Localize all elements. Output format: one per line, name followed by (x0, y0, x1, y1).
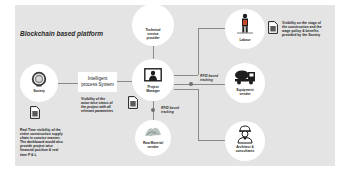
document-icon-labour (268, 21, 278, 34)
raw-material-icon (144, 124, 162, 138)
connector-pm-equipment (174, 84, 225, 85)
pm-label-line2: Manager (132, 89, 174, 93)
rfid-tag-right: RFID based tracking (200, 74, 218, 82)
connector-tsp-pm (153, 46, 154, 59)
connector-vertical-lower (198, 89, 199, 140)
rfid-tag-bottom: RFID based tracking (161, 106, 179, 114)
society-note-line: time P & L (20, 153, 82, 157)
pm-label: Project Manager (132, 85, 174, 93)
tsp-label-line3: provider (132, 36, 174, 40)
architect-label: Architect & consultants (225, 145, 265, 153)
node-project-manager[interactable]: Project Manager (132, 59, 174, 101)
labour-note-line: provided by the Society (282, 33, 336, 37)
node-labour[interactable]: Labour (225, 9, 265, 49)
node-raw-material-vendor[interactable]: Raw Material vendor (135, 120, 171, 156)
connector-society-ips (58, 83, 78, 84)
rfid-bottom-line2: tracking (161, 110, 179, 114)
document-icon-pm (128, 96, 138, 109)
raw-label: Raw Material vendor (135, 141, 171, 149)
connector-to-labour (198, 28, 225, 29)
diagram-title: Blockchain based platform (20, 30, 103, 37)
society-seal-icon (31, 71, 47, 87)
connector-pm-right-upper (174, 75, 198, 76)
pm-note-line: relevant parameters (81, 109, 129, 113)
document-icon-society (30, 106, 40, 119)
architect-label-line2: consultants (225, 149, 265, 153)
connector-pm-right-lower (174, 89, 198, 90)
node-technical-service-provider[interactable]: Technical service provider (132, 4, 174, 46)
node-society[interactable]: Society (20, 64, 58, 102)
node-intelligent-process-system[interactable]: Intelligent process System (78, 72, 117, 92)
tsp-label: Technical service provider (132, 28, 174, 40)
note-project-manager: Visibility of the actor wise status of t… (81, 97, 129, 113)
monitor-person-icon (144, 68, 162, 82)
node-equipment-vendor[interactable]: Equipment vendor (225, 63, 265, 103)
connector-dot-right (189, 82, 193, 86)
connector-ips-pm (117, 81, 132, 82)
society-label: Society (20, 89, 58, 93)
node-architect-consultants[interactable]: Architect & consultants (225, 121, 265, 161)
note-society: Real Time visibility of the entire const… (20, 128, 82, 157)
connector-to-architect (198, 140, 225, 141)
note-labour: Visibility on the stage of the construct… (282, 21, 336, 37)
equipment-label-line2: vendor (225, 92, 265, 96)
rfid-right-line2: tracking (200, 78, 218, 82)
engineer-helmet-icon (237, 125, 253, 143)
labour-label: Labour (225, 38, 265, 42)
connector-dot-bottom (151, 108, 155, 112)
raw-label-line2: vendor (135, 145, 171, 149)
worker-icon (237, 13, 253, 35)
ips-label-line2: process System (81, 82, 114, 88)
connector-vertical-upper (198, 28, 199, 75)
concrete-mixer-truck-icon (234, 69, 256, 85)
equipment-label: Equipment vendor (225, 88, 265, 96)
